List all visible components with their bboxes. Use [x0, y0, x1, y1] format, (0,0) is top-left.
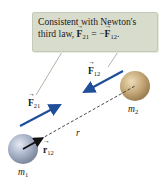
- label-f21: F21: [28, 98, 40, 109]
- label-r12: r12: [43, 145, 54, 156]
- label-f12: F12: [88, 66, 100, 77]
- label-m1: m1: [18, 167, 28, 178]
- callout-pointer-right: [108, 52, 118, 67]
- vector-f12: F: [105, 28, 111, 40]
- callout-pointer-left: [36, 52, 62, 95]
- callout-line-1: Consistent with Newton's: [38, 16, 153, 28]
- vector-f21: F: [77, 28, 83, 40]
- label-m2: m2: [128, 104, 138, 115]
- callout-line-2: third law, F21 = −F12.: [38, 28, 153, 43]
- newton-third-law-callout: Consistent with Newton's third law, F21 …: [32, 12, 158, 52]
- label-r: r: [76, 128, 80, 138]
- force-arrow-f21: [20, 106, 58, 126]
